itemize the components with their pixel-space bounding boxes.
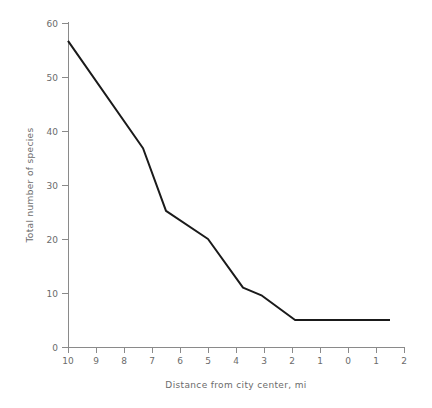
y-tick-label: 40 <box>47 127 59 137</box>
chart-canvas: 0102030405060 10987654321012 Distance fr… <box>0 0 432 408</box>
axes-group <box>68 22 404 348</box>
x-tick-label: 2 <box>401 356 407 366</box>
x-tick-label: 3 <box>261 356 267 366</box>
x-tick-label: 4 <box>233 356 239 366</box>
x-tick-label: 1 <box>373 356 379 366</box>
y-tick-label: 20 <box>47 235 59 245</box>
chart-figure: 0102030405060 10987654321012 Distance fr… <box>0 0 432 408</box>
x-tick-label: 0 <box>345 356 351 366</box>
y-tick-label: 60 <box>47 19 59 29</box>
x-tick-label: 7 <box>149 356 155 366</box>
x-tick-label: 6 <box>177 356 183 366</box>
x-tick-label: 8 <box>121 356 127 366</box>
x-tick-label: 10 <box>62 356 74 366</box>
y-axis-title: Total number of species <box>25 127 35 243</box>
x-axis-title: Distance from city center, mi <box>165 380 306 390</box>
y-axis-ticks: 0102030405060 <box>47 19 68 353</box>
data-series-line <box>68 41 390 320</box>
x-tick-label: 1 <box>317 356 323 366</box>
x-tick-label: 9 <box>93 356 99 366</box>
y-tick-label: 30 <box>47 181 59 191</box>
x-axis-ticks: 10987654321012 <box>62 347 407 366</box>
y-tick-label: 10 <box>47 289 59 299</box>
x-tick-label: 5 <box>205 356 211 366</box>
y-tick-label: 0 <box>52 343 58 353</box>
y-tick-label: 50 <box>47 73 59 83</box>
x-tick-label: 2 <box>289 356 295 366</box>
